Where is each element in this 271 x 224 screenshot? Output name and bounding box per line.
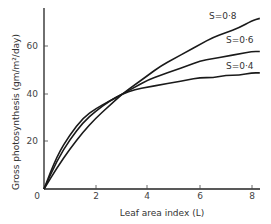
- series-label-s06: S=0·6: [226, 35, 254, 45]
- y-ticks: 20 40 60: [27, 41, 48, 146]
- x-tick-label-8: 8: [249, 191, 255, 201]
- line-chart: 20 40 60 0 2 4 6 8 Leaf area index (L) G…: [0, 0, 271, 224]
- x-axis-title: Leaf area index (L): [120, 208, 204, 218]
- x-tick-label-6: 6: [197, 191, 203, 201]
- series-label-s04: S=0·4: [226, 61, 254, 71]
- y-tick-label-40: 40: [27, 89, 39, 99]
- y-tick-label-60: 60: [27, 41, 39, 51]
- series-label-s08: S=0·8: [209, 11, 237, 21]
- y-tick-label-20: 20: [27, 136, 39, 146]
- x-ticks: 0 2 4 6 8: [34, 185, 255, 201]
- x-tick-label-2: 2: [93, 191, 99, 201]
- y-axis-title: Gross photosynthesis (gm/m²/day): [11, 34, 21, 190]
- origin-label: 0: [34, 191, 40, 201]
- x-tick-label-4: 4: [144, 191, 150, 201]
